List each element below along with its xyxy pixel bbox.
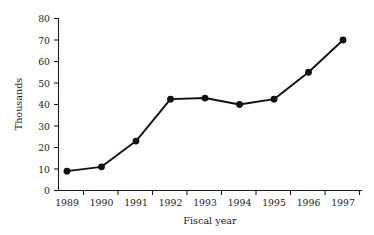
x-tick-label: 1995 <box>262 197 286 208</box>
data-point <box>133 138 140 145</box>
x-tick-label: 1990 <box>90 197 114 208</box>
y-tick-label: 50 <box>38 78 50 89</box>
x-tick-label: 1997 <box>331 197 355 208</box>
x-tick-label: 1993 <box>193 197 217 208</box>
series-line <box>67 40 343 171</box>
y-tick-label: 80 <box>38 13 50 24</box>
line-chart: 80 70 60 50 40 30 20 10 0 1989 1990 199 <box>0 0 374 235</box>
x-tick-label: 1991 <box>124 197 148 208</box>
x-axis-title: Fiscal year <box>183 215 237 226</box>
data-point <box>64 168 71 175</box>
y-tick-label: 70 <box>38 35 50 46</box>
y-tick-label: 0 <box>44 185 50 196</box>
data-point <box>167 96 174 103</box>
data-point <box>236 101 243 108</box>
y-tick-label: 20 <box>38 142 50 153</box>
x-tick-label: 1994 <box>228 197 252 208</box>
y-axis-title: Thousands <box>13 78 24 130</box>
x-axis-tick-labels: 1989 1990 1991 1992 1993 1994 1995 1996 … <box>55 197 355 208</box>
y-tick-label: 40 <box>38 99 50 110</box>
x-tick-label: 1989 <box>55 197 79 208</box>
y-tick-label: 30 <box>38 121 50 132</box>
x-tick-label: 1996 <box>297 197 321 208</box>
y-axis-tick-labels: 80 70 60 50 40 30 20 10 0 <box>38 13 50 196</box>
data-point <box>202 95 209 102</box>
data-point <box>271 96 278 103</box>
data-point <box>305 69 312 76</box>
y-axis-ticks <box>54 19 59 191</box>
x-tick-label: 1992 <box>159 197 183 208</box>
x-axis-ticks <box>84 191 360 196</box>
y-tick-label: 60 <box>38 56 50 67</box>
series-markers <box>64 37 347 175</box>
chart-canvas: 80 70 60 50 40 30 20 10 0 1989 1990 199 <box>0 0 374 235</box>
data-point <box>340 37 347 44</box>
y-tick-label: 10 <box>38 164 50 175</box>
data-point <box>98 163 105 170</box>
